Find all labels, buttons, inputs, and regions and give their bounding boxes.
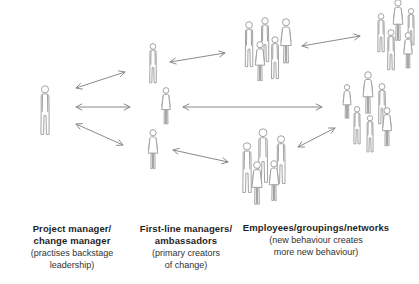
person-male-figure: [245, 22, 253, 67]
label-first-line-managers-sub-2: of change): [140, 259, 232, 271]
double-arrow-flm-middle-to-group-middle: [183, 104, 322, 110]
person-female-figure: [162, 88, 171, 124]
label-project-manager: Project manager/ change manager (practis…: [31, 223, 114, 271]
label-employees-sub-1: (new behaviour creates: [243, 234, 389, 246]
double-arrow-flm-top-to-group-top: [170, 51, 225, 64]
change-management-diagram: Project manager/ change manager (practis…: [0, 0, 419, 284]
person-female-figure: [148, 130, 157, 169]
label-project-manager-sub-2: leadership): [31, 259, 114, 271]
person-female-figure: [404, 33, 412, 68]
double-arrow-pm-to-flm-top: [76, 71, 125, 89]
double-arrow-pm-to-flm-middle: [76, 104, 130, 110]
label-project-manager-sub-1: (practises backstage: [31, 247, 114, 259]
label-first-line-managers-bold-2: ambassadors: [140, 235, 232, 247]
person-male-figure: [150, 44, 157, 83]
person-female-figure: [393, 0, 403, 40]
first-line-managers-figures: [148, 44, 170, 169]
person-male-figure: [354, 107, 360, 144]
double-arrow-group-bottom-to-group-middle: [298, 128, 335, 147]
employees-group-middle-right: [343, 72, 392, 152]
project-manager-figure: [41, 86, 49, 135]
label-employees: Employees/groupings/networks (new behavi…: [243, 222, 389, 258]
label-project-manager-bold-2: change manager: [31, 235, 114, 247]
employees-group-top: [245, 18, 291, 81]
label-first-line-managers-bold-1: First-line managers/: [140, 223, 232, 235]
people-layer: [41, 0, 414, 204]
employees-group-far-right: [378, 0, 414, 70]
person-male-figure: [41, 86, 49, 135]
person-male-figure: [271, 37, 278, 79]
double-arrow-pm-to-flm-bottom: [76, 124, 123, 146]
person-male-figure: [367, 116, 373, 152]
person-male-figure: [243, 143, 251, 193]
employees-group-bottom-centre: [243, 129, 285, 204]
label-employees-sub-2: more new behaviour): [243, 246, 389, 258]
person-male-figure: [378, 14, 384, 52]
label-employees-bold-1: Employees/groupings/networks: [243, 222, 389, 234]
label-first-line-managers: First-line managers/ ambassadors (primar…: [140, 223, 232, 271]
person-female-figure: [281, 19, 292, 63]
arrows-layer: [76, 34, 360, 164]
label-first-line-managers-sub-1: (primary creators: [140, 247, 232, 259]
label-project-manager-bold-1: Project manager/: [31, 223, 114, 235]
person-male-figure: [388, 30, 395, 70]
double-arrow-flm-bottom-to-group-bottom: [173, 148, 228, 163]
person-female-figure: [363, 72, 373, 114]
double-arrow-group-top-to-group-far-right: [302, 34, 360, 48]
person-female-figure: [343, 85, 351, 119]
